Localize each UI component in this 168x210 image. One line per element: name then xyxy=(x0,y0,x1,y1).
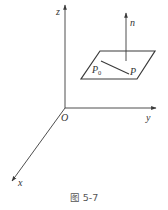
y-axis-label: y xyxy=(145,112,151,123)
point-p-label: P xyxy=(129,66,136,77)
segment-p0-p xyxy=(101,61,129,74)
coordinate-plane-diagram: z y x O n P0 P 图 5-7 xyxy=(0,0,168,210)
normal-vector-label: n xyxy=(130,17,135,28)
origin-label: O xyxy=(61,112,68,123)
figure-caption: 图 5-7 xyxy=(70,192,99,203)
x-axis-label: x xyxy=(17,177,23,188)
point-p0-main: P xyxy=(91,64,98,75)
point-p0-subscript: 0 xyxy=(98,69,101,76)
point-p0-label: P0 xyxy=(91,64,101,76)
z-axis-label: z xyxy=(55,6,60,17)
x-axis xyxy=(12,108,65,181)
